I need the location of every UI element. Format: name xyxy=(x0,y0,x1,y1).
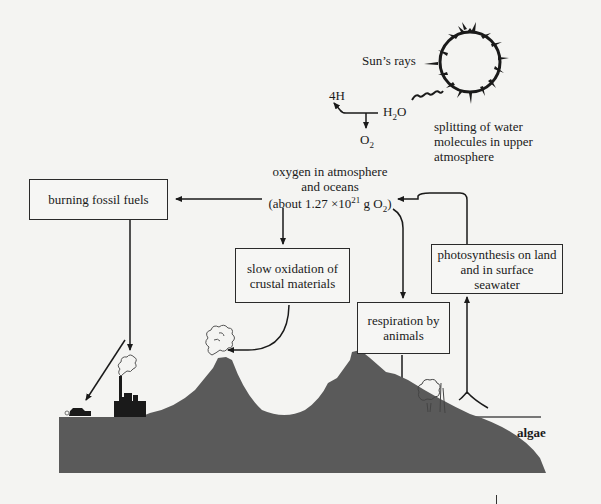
water-h: H xyxy=(383,104,392,119)
caption-line: splitting of water xyxy=(434,119,533,134)
caption-line: molecules in upper xyxy=(434,134,533,149)
reservoir-line-1: oxygen in atmosphere xyxy=(262,164,398,179)
sun-ray-wave xyxy=(412,91,443,100)
box-label: crustal materials xyxy=(250,276,336,291)
box-label: burning fossil fuels xyxy=(48,192,148,207)
page-corner-mark xyxy=(496,495,497,504)
oxygen-o: O xyxy=(360,132,369,147)
box-label: slow oxidation of xyxy=(247,261,338,276)
car-icon xyxy=(65,408,91,416)
box-label: animals xyxy=(383,328,423,343)
water-splitting-caption: splitting of water molecules in upper at… xyxy=(434,119,533,164)
oxidation-to-volcano-arrow xyxy=(228,305,289,350)
reservoir-to-respiration-arrow xyxy=(393,209,403,298)
box-label: respiration by xyxy=(368,313,440,328)
reservoir-line-2: and oceans xyxy=(262,179,398,194)
hydrogen-product-label: 4H xyxy=(329,88,345,103)
box-label: and in surface xyxy=(461,262,534,277)
factory-icon xyxy=(114,376,146,417)
water-molecule-label: H2O xyxy=(383,104,406,119)
water-o: O xyxy=(397,104,406,119)
factory-smoke-icon xyxy=(118,355,136,376)
reservoir-line-3: (about 1.27 ×1021 g O2) xyxy=(262,196,398,211)
box-label: photosynthesis on land xyxy=(437,247,556,262)
oxygen-sub: 2 xyxy=(369,140,374,150)
caption-line: atmosphere xyxy=(434,149,533,164)
burning-fossil-fuels-box: burning fossil fuels xyxy=(29,179,168,220)
oxygen-product-label: O2 xyxy=(360,132,374,147)
slow-oxidation-box: slow oxidation of crustal materials xyxy=(235,248,350,303)
box-label: seawater xyxy=(474,277,519,292)
algae-icon xyxy=(459,392,488,408)
photosynthesis-to-reservoir-arrow xyxy=(398,193,467,244)
photosynthesis-box: photosynthesis on land and in surface se… xyxy=(431,244,563,294)
oxygen-reservoir-label: oxygen in atmosphere and oceans (about 1… xyxy=(262,164,398,211)
h2o-to-4h-arrow xyxy=(334,103,378,113)
algae-label: algae xyxy=(517,425,546,440)
respiration-box: respiration by animals xyxy=(357,302,450,354)
sun-rays-label: Sun’s rays xyxy=(362,53,416,68)
